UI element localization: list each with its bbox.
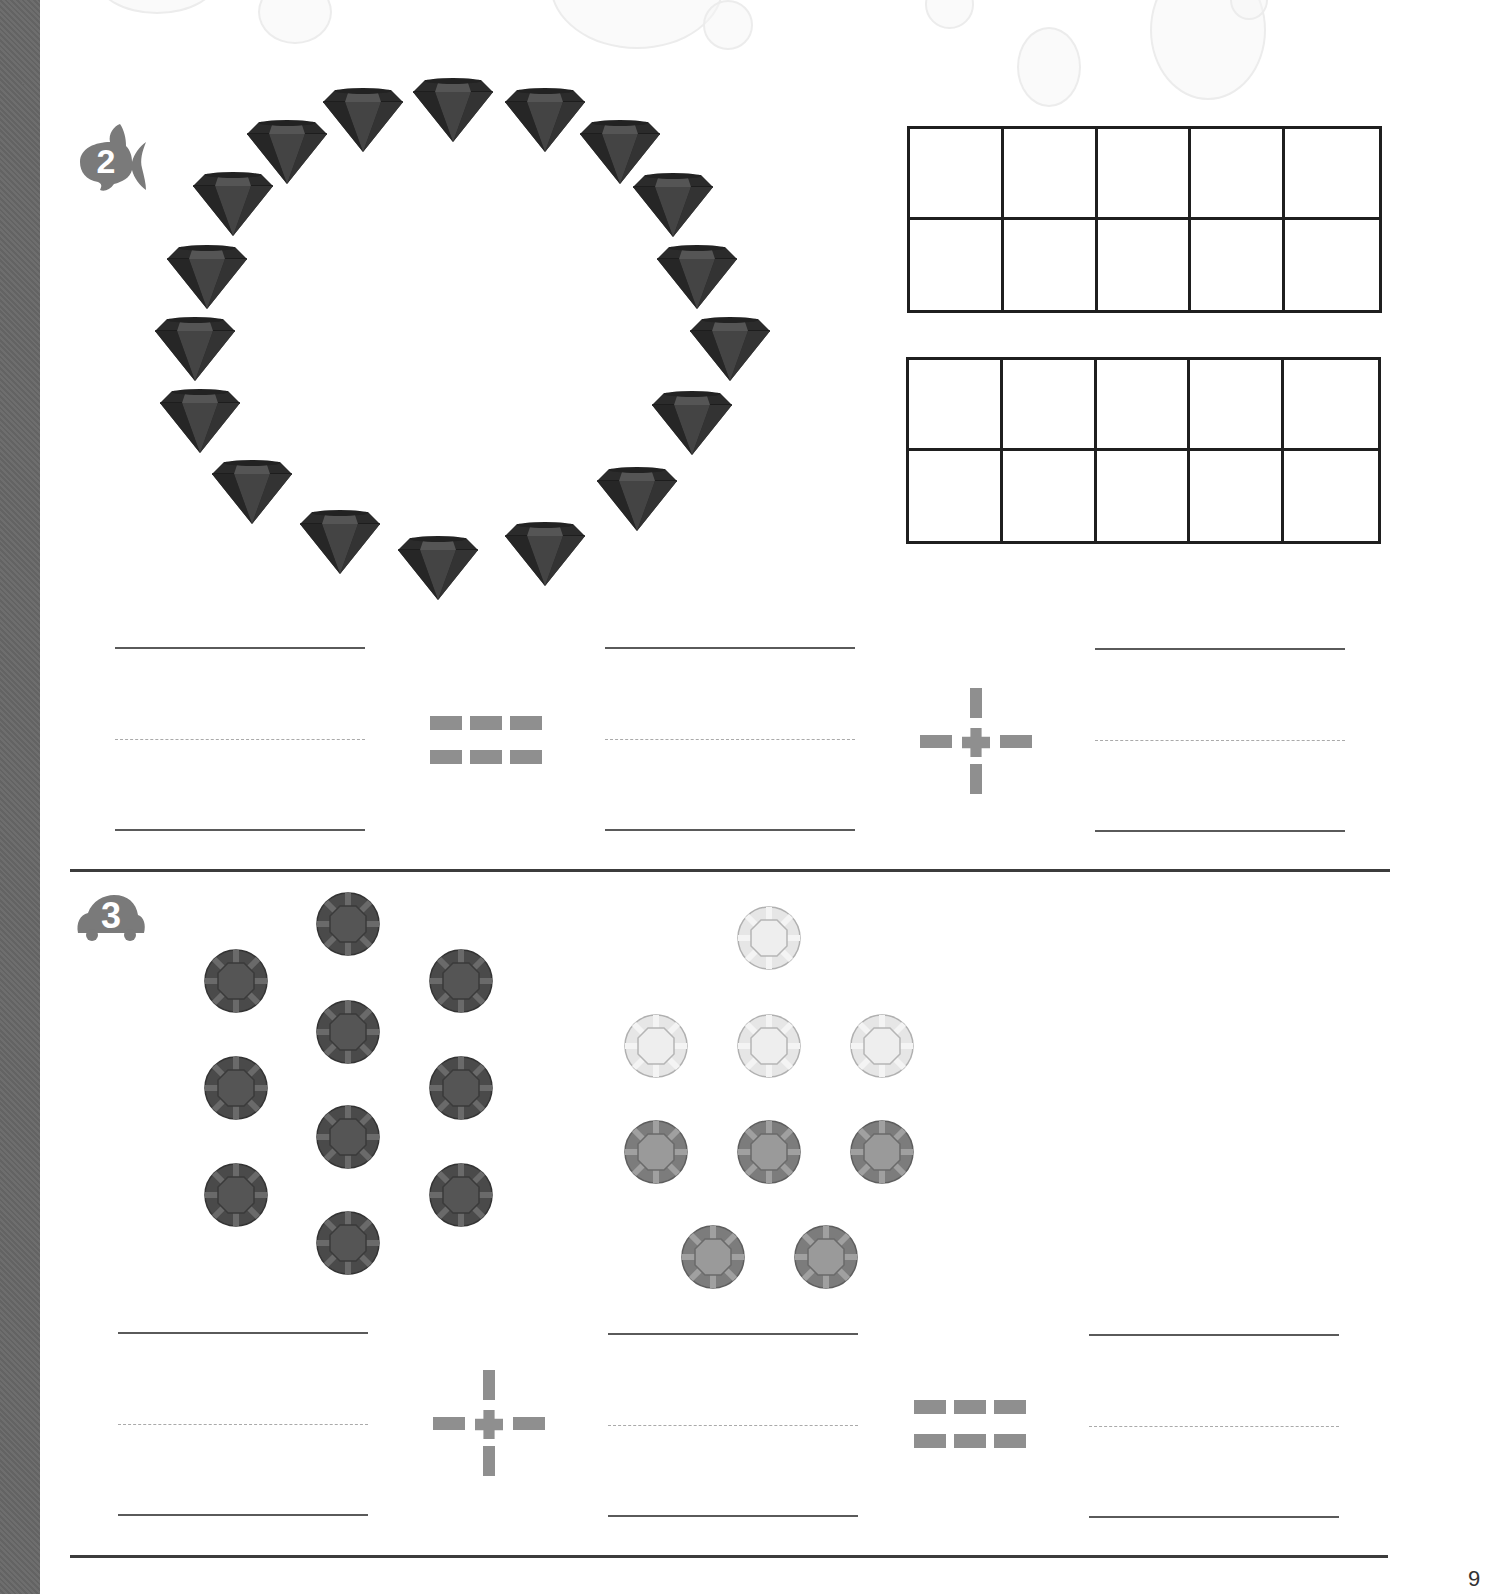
- diamond-icon: [193, 172, 273, 236]
- ten-frame-cell[interactable]: [1191, 220, 1285, 311]
- section-divider: [70, 869, 1390, 872]
- diamond-icon: [398, 536, 478, 600]
- writing-line-top: [608, 1333, 858, 1335]
- diamond-icon: [323, 88, 403, 152]
- plus-sign-icon: [433, 1370, 545, 1476]
- writing-line-dashed: [605, 739, 855, 740]
- gem-light-icon: [850, 1014, 914, 1078]
- diamond-icon: [580, 120, 660, 184]
- gem-icon: [204, 1056, 268, 1120]
- diamond-group: [0, 0, 1492, 700]
- diamond-icon: [505, 522, 585, 586]
- gem-medium-icon: [737, 1120, 801, 1184]
- writing-line-dashed: [608, 1425, 858, 1426]
- writing-line-top: [605, 647, 855, 649]
- writing-line-bottom: [1089, 1516, 1339, 1518]
- gem-icon: [204, 1163, 268, 1227]
- answer-blank-2[interactable]: [608, 1333, 858, 1517]
- gem-icon: [429, 1056, 493, 1120]
- gem-icon: [316, 892, 380, 956]
- equals-sign-icon: [430, 716, 542, 760]
- gem-medium-icon: [681, 1225, 745, 1289]
- ten-frame-cell[interactable]: [1284, 451, 1378, 542]
- plus-sign-icon: [920, 688, 1032, 794]
- diamond-icon: [300, 510, 380, 574]
- ten-frame-cell[interactable]: [910, 220, 1004, 311]
- diamond-icon: [155, 317, 235, 381]
- answer-blank-1[interactable]: [115, 647, 365, 831]
- ten-frame-cell[interactable]: [1284, 360, 1378, 451]
- ten-frame-cell[interactable]: [909, 360, 1003, 451]
- gem-icon: [429, 1163, 493, 1227]
- gem-icon: [316, 1105, 380, 1169]
- diamond-icon: [597, 467, 677, 531]
- ten-frame-1: [907, 126, 1382, 313]
- diamond-icon: [413, 78, 493, 142]
- writing-line-bottom: [115, 829, 365, 831]
- ten-frame-cell[interactable]: [1004, 129, 1098, 220]
- ten-frame-cell[interactable]: [1285, 129, 1379, 220]
- writing-line-top: [1095, 648, 1345, 650]
- equals-sign-icon: [914, 1400, 1026, 1444]
- gem-medium-icon: [624, 1120, 688, 1184]
- ten-frame-2: [906, 357, 1381, 544]
- answer-blank-2[interactable]: [605, 647, 855, 831]
- diamond-icon: [212, 460, 292, 524]
- writing-line-bottom: [118, 1514, 368, 1516]
- writing-line-bottom: [608, 1515, 858, 1517]
- diamond-icon: [167, 245, 247, 309]
- diamond-icon: [652, 391, 732, 455]
- page-number: 9: [1468, 1566, 1480, 1592]
- gem-medium-icon: [850, 1120, 914, 1184]
- gem-icon: [429, 949, 493, 1013]
- ten-frame-cell[interactable]: [1285, 220, 1379, 311]
- writing-line-top: [1089, 1334, 1339, 1336]
- diamond-icon: [633, 173, 713, 237]
- ten-frame-cell[interactable]: [1097, 451, 1191, 542]
- diamond-icon: [160, 389, 240, 453]
- writing-line-dashed: [118, 1424, 368, 1425]
- ten-frame-cell[interactable]: [910, 129, 1004, 220]
- writing-line-dashed: [115, 739, 365, 740]
- answer-blank-3[interactable]: [1089, 1334, 1339, 1518]
- ten-frame-cell[interactable]: [1190, 451, 1284, 542]
- ten-frame-cell[interactable]: [1097, 360, 1191, 451]
- diamond-icon: [657, 245, 737, 309]
- gem-medium-icon: [794, 1225, 858, 1289]
- gem-icon: [316, 1211, 380, 1275]
- ten-frame-cell[interactable]: [1190, 360, 1284, 451]
- ten-frame-cell[interactable]: [1191, 129, 1285, 220]
- writing-line-top: [115, 647, 365, 649]
- answer-blank-3[interactable]: [1095, 648, 1345, 832]
- gem-icon: [316, 1000, 380, 1064]
- writing-line-dashed: [1095, 740, 1345, 741]
- answer-blank-1[interactable]: [118, 1332, 368, 1516]
- writing-line-dashed: [1089, 1426, 1339, 1427]
- ten-frame-cell[interactable]: [909, 451, 1003, 542]
- writing-line-top: [118, 1332, 368, 1334]
- ten-frame-cell[interactable]: [1004, 220, 1098, 311]
- ten-frame-cell[interactable]: [1098, 129, 1192, 220]
- problem-number: 3: [94, 895, 128, 937]
- gem-light-icon: [737, 906, 801, 970]
- ten-frame-cell[interactable]: [1098, 220, 1192, 311]
- section-divider: [70, 1555, 1388, 1558]
- diamond-icon: [505, 88, 585, 152]
- gem-light-icon: [624, 1014, 688, 1078]
- ten-frame-cell[interactable]: [1003, 360, 1097, 451]
- ten-frame-cell[interactable]: [1003, 451, 1097, 542]
- gem-light-icon: [737, 1014, 801, 1078]
- writing-line-bottom: [1095, 830, 1345, 832]
- writing-line-bottom: [605, 829, 855, 831]
- gem-icon: [204, 949, 268, 1013]
- problem-3-badge: 3: [74, 893, 146, 943]
- diamond-icon: [690, 317, 770, 381]
